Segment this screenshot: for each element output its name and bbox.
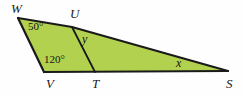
angle-label-V-120: 120° — [44, 54, 65, 65]
angle-label-x: x — [176, 57, 181, 69]
geometry-figure: W U S T V 50° 120° y x — [0, 0, 242, 96]
vertex-label-T: T — [92, 77, 99, 90]
geometry-diagram — [0, 0, 242, 96]
angle-label-y: y — [82, 33, 87, 45]
segment-VS-baseline — [44, 71, 228, 72]
angle-label-W-50: 50° — [28, 21, 43, 32]
vertex-label-U: U — [70, 7, 79, 20]
vertex-label-V: V — [46, 77, 54, 90]
vertex-label-S: S — [226, 77, 233, 90]
vertex-label-W: W — [11, 2, 22, 15]
